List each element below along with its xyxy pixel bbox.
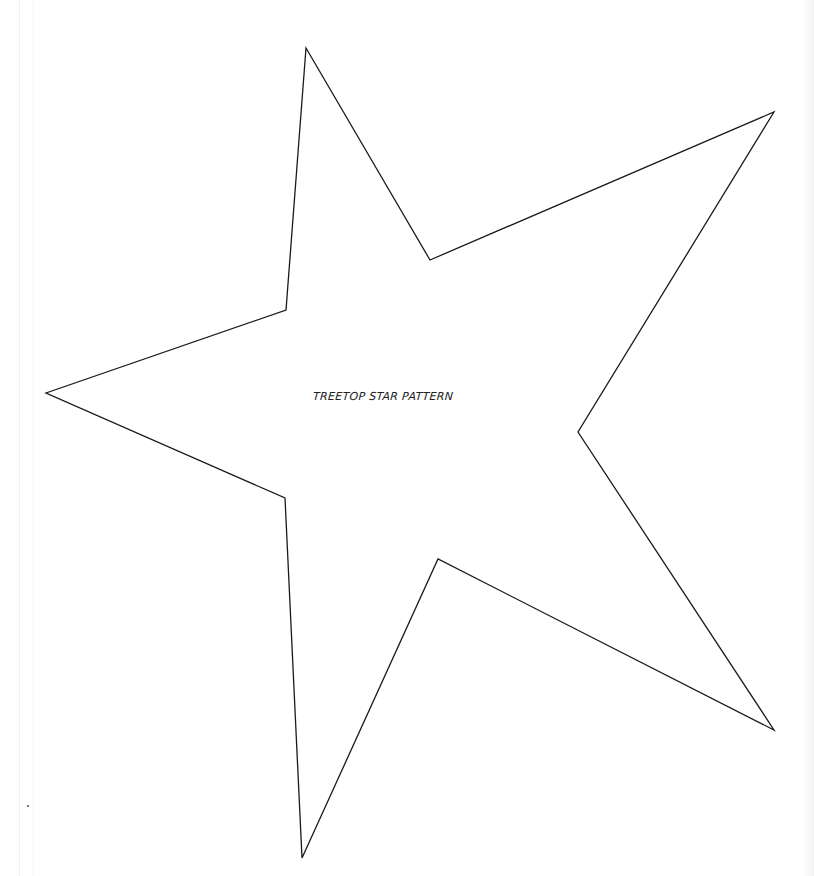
scan-speck [27, 805, 29, 807]
star-outline [0, 0, 814, 876]
pattern-page: TREETOP STAR PATTERN [0, 0, 814, 876]
pattern-caption: TREETOP STAR PATTERN [313, 390, 454, 403]
star-shape [46, 48, 774, 858]
